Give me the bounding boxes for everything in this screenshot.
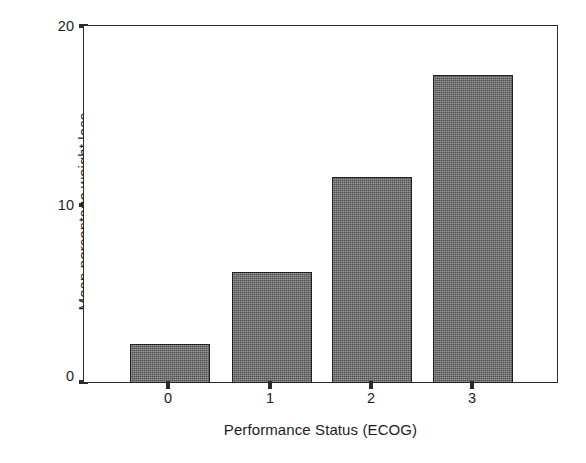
bar-category-1: [232, 272, 312, 383]
bar-category-2: [332, 177, 412, 383]
x-tick-label-1: 1: [250, 390, 290, 406]
plot-area: [83, 25, 558, 383]
x-tick-label-3: 3: [452, 390, 492, 406]
x-tick-label-2: 2: [351, 390, 391, 406]
x-axis-title: Performance Status (ECOG): [83, 421, 558, 438]
y-tick-label-20: 20: [38, 18, 74, 34]
bar-chart-figure: Mean percentage weight loss 20 10 0 0 1 …: [0, 0, 586, 463]
x-axis-tick-labels: 0 1 2 3: [0, 390, 586, 412]
y-tick-label-0: 0: [38, 368, 74, 384]
bar-category-0: [130, 344, 210, 383]
x-tick-mark-2: [369, 381, 373, 389]
y-tick-label-10: 10: [38, 197, 74, 213]
x-tick-mark-0: [166, 381, 170, 389]
bar-category-3: [433, 75, 513, 383]
x-tick-label-0: 0: [148, 390, 188, 406]
x-tick-mark-1: [268, 381, 272, 389]
x-tick-mark-3: [470, 381, 474, 389]
